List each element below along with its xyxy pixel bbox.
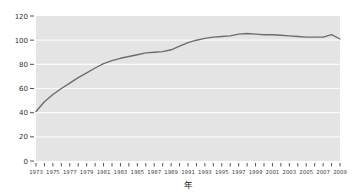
x-axis-tick-label: 1993 <box>198 169 212 175</box>
y-axis-tick-label: 60 <box>19 85 28 93</box>
x-axis-tick-label: 1983 <box>114 169 128 175</box>
x-axis-tick-label: 2001 <box>266 169 280 175</box>
x-axis-tick-label: 1985 <box>130 169 144 175</box>
x-axis-title: 年 <box>184 180 193 190</box>
y-axis-tick-label: 80 <box>19 61 28 69</box>
x-axis-tick-label: 1991 <box>181 169 195 175</box>
y-axis-tick-label: 40 <box>19 109 28 117</box>
x-axis-tick-label: 1987 <box>147 169 161 175</box>
chart-figure: 0204060801001201973197519771979198119831… <box>0 0 355 194</box>
x-axis-tick-label: 1997 <box>232 169 246 175</box>
x-axis-tick-label: 1979 <box>80 169 94 175</box>
x-axis-tick-label: 2003 <box>282 169 296 175</box>
y-axis-tick-label: 120 <box>15 13 28 21</box>
x-axis-tick-label: 2007 <box>316 169 330 175</box>
y-axis-tick-label: 20 <box>19 133 28 141</box>
y-axis-tick-label: 100 <box>15 37 28 45</box>
x-axis-tick-label: 2005 <box>299 169 313 175</box>
x-axis-tick-label: 1981 <box>97 169 111 175</box>
x-axis-tick-label: 1999 <box>249 169 263 175</box>
x-axis-tick-label: 1973 <box>29 169 43 175</box>
x-axis-tick-label: 1977 <box>63 169 77 175</box>
x-axis-tick-label: 2009 <box>333 169 347 175</box>
y-axis-tick-label: 0 <box>24 158 28 166</box>
line-chart: 0204060801001201973197519771979198119831… <box>0 0 355 194</box>
x-axis-tick-label: 1989 <box>164 169 178 175</box>
x-axis-tick-label: 1995 <box>215 169 229 175</box>
x-axis-tick-label: 1975 <box>46 169 60 175</box>
